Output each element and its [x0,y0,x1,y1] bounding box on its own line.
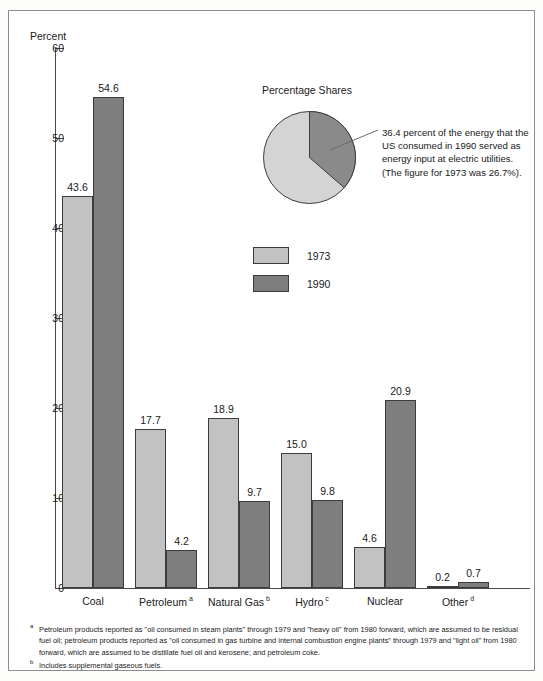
category-label-petroleum: Petroleuma [139,595,193,608]
footnote-b-text: Includes supplemental gaseous fuels. [39,661,162,670]
category-label-text: Other [442,596,468,608]
category-label-hydro: Hydroc [295,595,329,608]
legend-item-1990: 1990 [253,275,330,292]
category-label-text: Nuclear [367,595,403,607]
legend: 1973 1990 [253,247,330,303]
category-footnote-mark: d [470,595,474,602]
legend-item-1973: 1973 [253,247,330,264]
category-label-other: Otherd [442,595,474,608]
legend-swatch-1990 [253,275,289,292]
footnote-a: a Petroleum products reported as "oil co… [30,624,522,658]
category-footnote-mark: b [266,595,270,602]
footnote-a-text: Petroleum products reported as "oil cons… [39,625,518,657]
category-label-text: Petroleum [139,596,187,608]
footnote-b-mark: b [30,658,33,667]
chart-figure: Percent 6050403020100 43.654.617.74.218.… [0,0,543,681]
category-label-nuclear: Nuclear [367,595,403,607]
category-footnote-mark: c [325,595,329,602]
category-footnote-mark: a [189,595,193,602]
category-label-text: Hydro [295,596,323,608]
category-label-text: Coal [82,595,104,607]
category-labels: CoalPetroleumaNatural GasbHydrocNuclearO… [0,0,543,681]
pie-annotation-text: 36.4 percent of the energy that the US c… [382,126,532,179]
legend-label-1990: 1990 [307,278,330,290]
footnote-a-mark: a [30,622,33,631]
footnotes: a Petroleum products reported as "oil co… [30,624,522,673]
footnote-b: b Includes supplemental gaseous fuels. [30,660,522,671]
pie-chart-svg [262,110,357,205]
category-label-coal: Coal [82,595,104,607]
pie-chart [262,110,357,205]
legend-swatch-1973 [253,247,289,264]
category-label-natural-gas: Natural Gasb [208,595,270,608]
pie-chart-title: Percentage Shares [262,84,352,96]
category-label-text: Natural Gas [208,596,264,608]
legend-label-1973: 1973 [307,250,330,262]
